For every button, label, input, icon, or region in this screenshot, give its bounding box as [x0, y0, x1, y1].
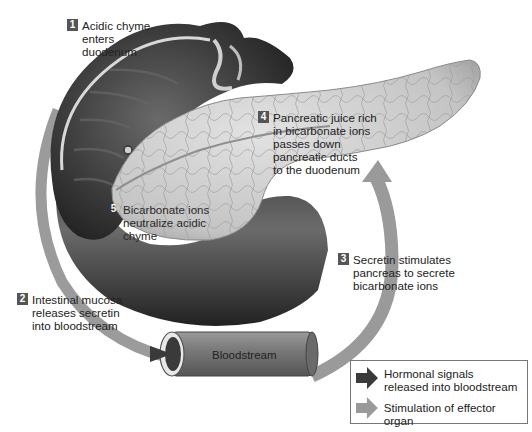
- legend-item-hormonal: Hormonal signals released into bloodstre…: [351, 367, 517, 393]
- step-number-badge: 2: [17, 293, 28, 305]
- step-number-badge: 5: [108, 203, 119, 215]
- step-3-label: 3Secretin stimulates pancreas to secrete…: [338, 253, 455, 292]
- bloodstream-label: Bloodstream: [212, 349, 277, 361]
- step-number-badge: 4: [258, 111, 269, 123]
- dark-arrow-icon: [356, 367, 378, 389]
- diagram-canvas: 1Acidic chyme enters duodenum 2Intestina…: [0, 0, 532, 432]
- legend-text: Hormonal signals released into bloodstre…: [384, 367, 517, 393]
- legend-text: Stimulation of effector organ: [384, 401, 527, 427]
- step-text: Secretin stimulates pancreas to secrete …: [353, 253, 455, 292]
- legend: Hormonal signals released into bloodstre…: [350, 360, 528, 424]
- light-arrow-icon: [356, 397, 378, 419]
- legend-item-stimulation: Stimulation of effector organ: [351, 397, 527, 427]
- step-text: Intestinal mucosa releases secretin into…: [32, 293, 122, 332]
- step-5-label: 5Bicarbonate ions neutralize acidic chym…: [108, 203, 209, 242]
- step-number-badge: 3: [338, 253, 349, 265]
- step-text: Pancreatic juice rich in bicarbonate ion…: [273, 111, 377, 176]
- step-text: Acidic chyme enters duodenum: [82, 19, 150, 58]
- step-2-label: 2Intestinal mucosa releases secretin int…: [17, 293, 122, 332]
- step-text: Bicarbonate ions neutralize acidic chyme: [123, 203, 209, 242]
- step-number-badge: 1: [67, 19, 78, 31]
- step-1-label: 1Acidic chyme enters duodenum: [67, 19, 150, 58]
- step-4-label: 4Pancreatic juice rich in bicarbonate io…: [258, 111, 377, 176]
